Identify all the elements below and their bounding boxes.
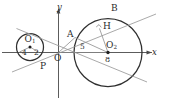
center-dot-o2 bbox=[106, 51, 109, 54]
point-label-b: B bbox=[111, 4, 118, 13]
point-label-h: H bbox=[103, 22, 111, 31]
right-angle-mark-h bbox=[96, 25, 101, 28]
measure-radius-2: 2 bbox=[34, 49, 39, 57]
measure-segment-5: 5 bbox=[80, 43, 85, 51]
point-label-o2: O2 bbox=[106, 41, 117, 51]
geometry-figure: y x O O1 O2 A B H P 4 2 5 8 bbox=[0, 0, 169, 103]
origin-label: O bbox=[54, 54, 61, 63]
x-axis-label: x bbox=[152, 48, 157, 57]
y-axis-label: y bbox=[57, 3, 62, 12]
measure-x-8: 8 bbox=[105, 56, 110, 64]
center-dot-o1 bbox=[29, 46, 32, 49]
point-label-p: P bbox=[40, 62, 46, 71]
point-label-o1: O1 bbox=[25, 35, 36, 45]
measure-radius-4: 4 bbox=[22, 49, 27, 57]
point-label-a: A bbox=[67, 30, 74, 39]
